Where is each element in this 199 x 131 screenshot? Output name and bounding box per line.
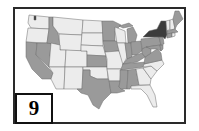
panel-label-box: 9 [15,93,53,124]
state-or [26,28,49,43]
state-ia [103,41,119,52]
state-wy [59,34,82,51]
state-nd [82,20,103,33]
state-ny [143,21,167,39]
state-nm [64,67,83,89]
state-az [49,67,65,89]
state-ks [87,55,107,67]
panel-number: 9 [29,98,40,119]
state-ri [172,33,175,37]
state-ct [167,33,172,38]
state-wi [115,27,126,43]
state-ms [119,70,128,89]
state-ar [107,69,121,81]
state-oh [131,41,142,55]
state-vt [166,20,170,31]
state-mt [53,17,83,35]
state-fl [131,85,157,107]
state-wa [28,15,49,29]
puget-sound-mark [34,16,36,20]
state-sd [81,33,103,46]
state-me [173,11,183,29]
state-co [65,50,87,67]
